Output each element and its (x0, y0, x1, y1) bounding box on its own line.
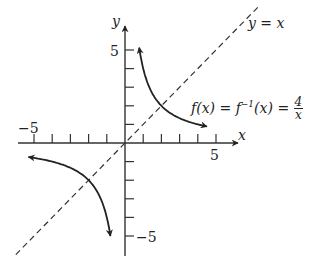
y-tick-label-5: 5 (110, 44, 119, 58)
identity-line (16, 5, 260, 254)
function-label-sup: −1 (241, 99, 254, 109)
fraction-denominator: x (294, 109, 304, 121)
y-tick-label-neg5: −5 (136, 230, 157, 244)
plot-area (0, 0, 320, 263)
function-label-pre: f(x) = f (191, 100, 241, 116)
chart: y 5 −5 5 −5 x y = x f(x) = f−1(x) = 4x (0, 0, 320, 263)
x-tick-label-5: 5 (210, 148, 219, 162)
identity-line-label: y = x (248, 16, 284, 30)
function-label: f(x) = f−1(x) = 4x (191, 96, 303, 121)
function-label-post: (x) = (254, 100, 293, 116)
x-tick-label-neg5: −5 (18, 121, 39, 135)
x-axis-label: x (238, 128, 246, 142)
curve-negative-branch (29, 157, 111, 236)
y-axis-label: y (112, 14, 120, 28)
fraction: 4x (294, 96, 304, 121)
